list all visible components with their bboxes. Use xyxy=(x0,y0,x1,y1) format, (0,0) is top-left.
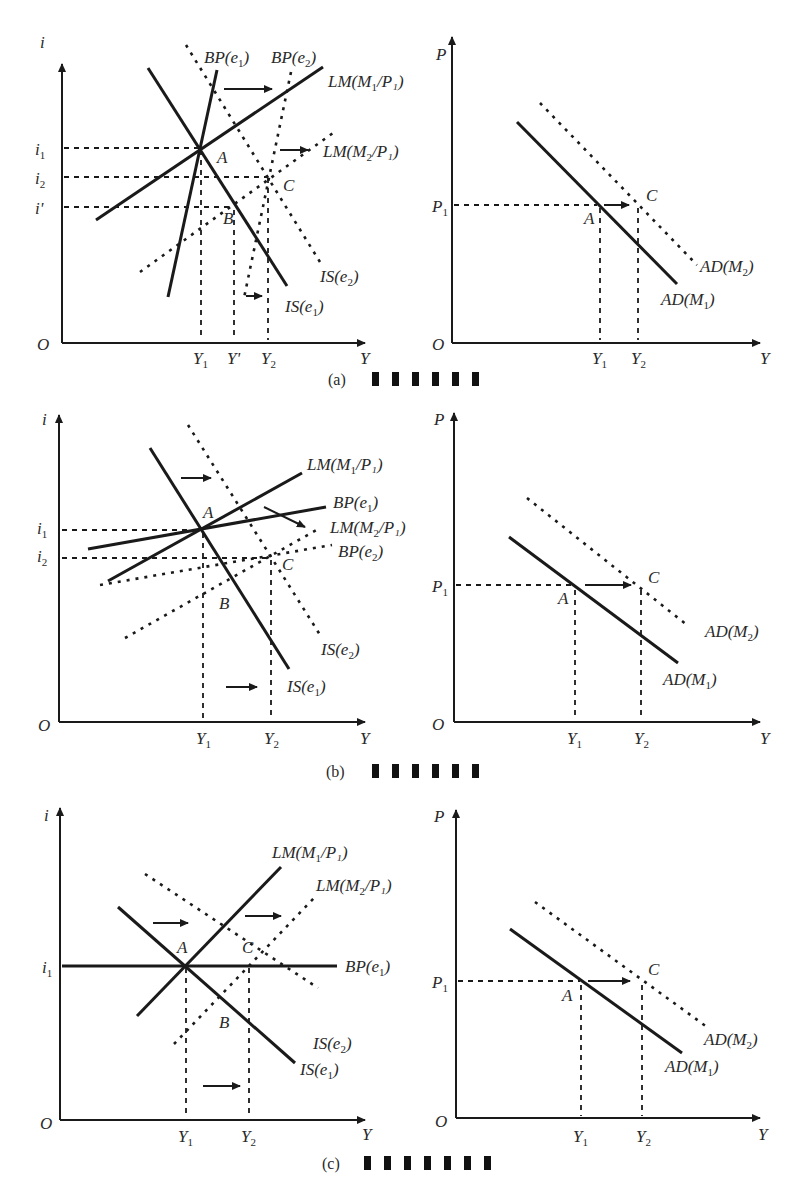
diagram-label: C xyxy=(648,568,660,587)
diagram-label: Y xyxy=(362,1125,373,1144)
curve xyxy=(118,907,295,1063)
diagram-label: A xyxy=(202,503,214,522)
diagram-label: Y xyxy=(360,729,371,748)
diagram-label: i xyxy=(44,806,49,825)
redacted-char-block xyxy=(432,764,439,778)
diagram-label: Y' xyxy=(227,349,240,368)
redacted-char-block xyxy=(372,372,379,386)
diagram-label: P1 xyxy=(431,197,448,218)
shifted-curve xyxy=(527,498,687,625)
shifted-curve xyxy=(540,103,697,265)
curve xyxy=(96,67,323,220)
diagram-label: i2 xyxy=(37,547,47,568)
diagram-label: O xyxy=(38,716,50,735)
diagram-label: Y xyxy=(760,729,771,748)
diagram-label: O xyxy=(432,335,444,354)
diagram-label: Y2 xyxy=(261,349,276,370)
curve xyxy=(168,70,217,297)
diagram-label: Y1 xyxy=(592,349,607,370)
redacted-char-block xyxy=(452,764,459,778)
diagram-label: Y xyxy=(360,349,371,368)
diagram-label: Y2 xyxy=(264,729,279,750)
redacted-char-block xyxy=(424,1156,431,1170)
diagram-label: Y1 xyxy=(567,729,582,750)
diagram-label: A xyxy=(557,589,569,608)
diagram-label: C xyxy=(648,960,660,979)
diagram-label: A xyxy=(216,148,228,167)
diagram-label: Y1 xyxy=(573,1127,588,1148)
shifted-curve xyxy=(174,898,314,1044)
redacted-char-block xyxy=(364,1156,371,1170)
diagram-label: A xyxy=(583,209,595,228)
shifted-curve xyxy=(188,425,322,638)
diagram-label: LM(M1/P₁) xyxy=(271,843,348,864)
shifted-curve xyxy=(145,874,318,988)
curve xyxy=(510,929,682,1053)
diagram-label: IS(e2) xyxy=(319,267,359,288)
redacted-char-block xyxy=(412,372,419,386)
diagram-label: BP(e1) xyxy=(333,493,378,514)
diagram-label: LM(M1/P₁) xyxy=(306,455,383,476)
diagram-label: IS(e2) xyxy=(320,640,360,661)
diagram-label: LM(M2/P₁) xyxy=(329,518,406,539)
diagram-label: A xyxy=(561,986,573,1005)
diagram-label: C xyxy=(282,555,294,574)
shifted-curve xyxy=(125,528,320,638)
redacted-char-block xyxy=(472,764,479,778)
redacted-char-block xyxy=(392,372,399,386)
redacted-char-block xyxy=(404,1156,411,1170)
diagram-label: LM(M2/P₁) xyxy=(322,142,399,163)
diagram-label: BP(e1) xyxy=(204,48,249,69)
diagram-label: O xyxy=(37,335,49,354)
shifted-curve xyxy=(140,133,333,272)
diagram-label: LM(M1/P₁) xyxy=(327,72,404,93)
panel-caption: (c) xyxy=(322,1155,340,1173)
redacted-char-block xyxy=(452,372,459,386)
redacted-char-block xyxy=(432,372,439,386)
diagram-label: LM(M2/P₁) xyxy=(315,876,392,897)
diagram-label: AD(M1) xyxy=(662,670,717,691)
diagram-label: AD(M2) xyxy=(699,257,754,278)
figure-canvas: ii1i2i'OYY1Y'Y2BP(e1)BP(e2)LM(M1/P₁)LM(M… xyxy=(0,0,801,1192)
diagram-label: P1 xyxy=(431,577,448,598)
redacted-char-block xyxy=(384,1156,391,1170)
redacted-char-block xyxy=(472,372,479,386)
panel-caption: (a) xyxy=(328,371,346,389)
diagram-label: AD(M1) xyxy=(660,290,715,311)
diagram-label: Y xyxy=(760,349,771,368)
diagram-label: O xyxy=(435,1112,447,1131)
diagram-label: P xyxy=(433,410,444,429)
diagram-label: i xyxy=(40,33,45,52)
diagram-label: IS(e1) xyxy=(299,1060,339,1081)
diagram-label: O xyxy=(40,1114,52,1133)
diagram-label: B xyxy=(219,594,230,613)
diagram-label: i xyxy=(42,410,47,429)
diagram-label: BP(e2) xyxy=(338,542,383,563)
redacted-char-block xyxy=(464,1156,471,1170)
redacted-char-block xyxy=(484,1156,491,1170)
diagram-label: Y2 xyxy=(241,1127,256,1148)
diagram-label: B xyxy=(219,1013,230,1032)
panel-b: ii1i2OYY1Y2LM(M1/P₁)BP(e1)LM(M2/P₁)BP(e2… xyxy=(37,410,771,781)
diagram-label: P xyxy=(435,45,446,64)
diagram-label: BP(e2) xyxy=(271,48,316,69)
diagram-label: AD(M2) xyxy=(703,1030,758,1051)
diagram-label: IS(e1) xyxy=(286,677,326,698)
diagram-label: B xyxy=(223,209,234,228)
diagram-label: IS(e1) xyxy=(284,297,324,318)
diagram-label: Y2 xyxy=(631,349,646,370)
diagram-label: Y1 xyxy=(193,349,208,370)
redacted-char-block xyxy=(412,764,419,778)
curve xyxy=(509,537,678,663)
diagram-label: Y1 xyxy=(178,1127,193,1148)
shifted-curve xyxy=(186,45,320,262)
diagram-label: i1 xyxy=(35,140,45,161)
diagram-label: O xyxy=(432,715,444,734)
diagram-label: i' xyxy=(35,199,44,218)
diagram-label: BP(e1) xyxy=(345,957,390,978)
diagram-label: C xyxy=(646,186,658,205)
diagram-label: Y xyxy=(758,1125,769,1144)
diagram-label: i1 xyxy=(37,519,47,540)
diagram-label: Y2 xyxy=(634,729,649,750)
diagram-label: Y2 xyxy=(636,1127,651,1148)
